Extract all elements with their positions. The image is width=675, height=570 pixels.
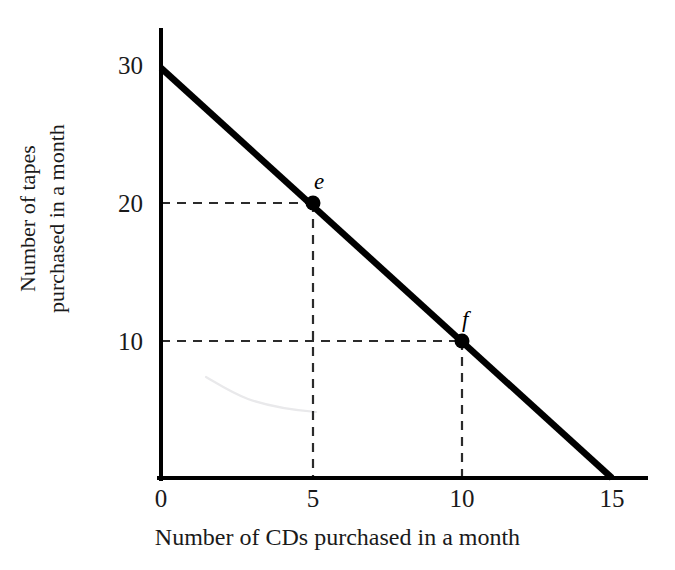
x-tick-label-15: 15 [592, 486, 632, 511]
chart-plot-area [0, 0, 675, 570]
budget-line [161, 68, 612, 478]
data-point-label-e: e [314, 170, 324, 193]
y-tick-label-20: 20 [95, 191, 143, 216]
y-tick-label-10: 10 [95, 329, 143, 354]
data-point-label-f: f [462, 308, 468, 331]
x-axis-title: Number of CDs purchased in a month [0, 524, 675, 552]
data-point-f-marker [455, 334, 470, 349]
budget-line-chart-figure: 30 20 10 0 5 10 15 e f Number of CDs pur… [0, 0, 675, 570]
y-axis-title-line-1: Number of tapes [14, 114, 43, 324]
y-axis-title-line-2: purchased in a month [43, 114, 72, 324]
y-axis-title: Number of tapes purchased in a month [14, 114, 71, 324]
x-tick-label-10: 10 [442, 486, 482, 511]
y-tick-label-30: 30 [95, 53, 143, 78]
faint-artifact-curve [206, 377, 316, 412]
data-point-e-marker [306, 196, 321, 211]
x-tick-label-5: 5 [293, 486, 333, 511]
x-tick-label-0: 0 [141, 486, 181, 511]
